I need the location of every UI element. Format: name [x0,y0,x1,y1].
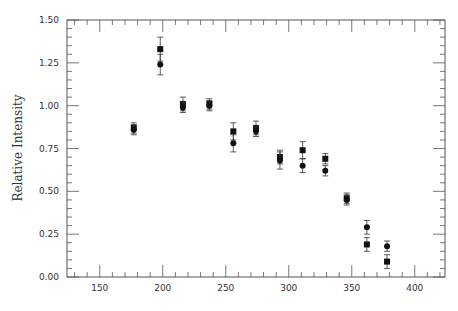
x-tick-label: 400 [406,283,423,293]
y-axis-ticks [67,20,445,277]
square-marker [384,259,390,265]
circle-marker [230,140,236,146]
circle-marker [344,197,350,203]
square-marker [364,241,370,247]
y-tick-label: 0.00 [39,272,59,282]
circle-marker [322,168,328,174]
y-tick-label: 1.00 [39,101,59,111]
data-series [131,37,390,268]
x-tick-label: 250 [217,283,234,293]
square-marker [157,46,163,52]
scatter-chart: 150200250300350400 0.000.250.500.751.001… [0,0,458,311]
circle-marker [253,128,259,134]
y-tick-label: 0.50 [39,186,59,196]
circle-marker [364,224,370,230]
plot-frame [67,20,445,277]
x-axis-tick-labels: 150200250300350400 [91,283,423,293]
square-marker [230,128,236,134]
square-marker [322,156,328,162]
circle-marker [384,243,390,249]
y-tick-label: 1.50 [39,15,59,25]
circle-marker [206,103,212,109]
x-tick-label: 300 [280,283,297,293]
circle-marker [277,157,283,163]
y-tick-label: 1.25 [39,58,59,68]
x-tick-label: 350 [343,283,360,293]
y-axis-tick-labels: 0.000.250.500.751.001.251.50 [39,15,59,282]
y-tick-label: 0.25 [39,229,59,239]
plot-border [67,20,445,277]
x-tick-label: 200 [154,283,171,293]
x-axis-ticks [75,20,440,277]
circle-marker [180,104,186,110]
y-axis-title: Relative Intensity [11,94,25,201]
circle-marker [300,163,306,169]
x-tick-label: 150 [91,283,108,293]
series-squares [131,37,390,268]
y-tick-label: 0.75 [39,144,59,154]
square-marker [300,147,306,153]
series-circles [131,54,390,251]
circle-marker [157,62,163,68]
circle-marker [131,127,137,133]
